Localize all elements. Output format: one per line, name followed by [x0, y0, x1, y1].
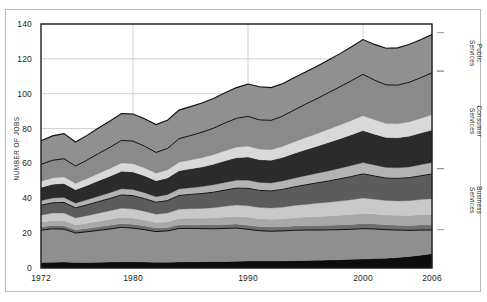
stacked-area-chart — [0, 0, 487, 302]
x-tick-label: 1980 — [113, 273, 153, 283]
bracket-label-line2: Services — [469, 91, 476, 151]
chart-screenshot: 020406080100120140 19721980199020002006 … — [0, 0, 487, 302]
x-tick-label: 2000 — [343, 273, 383, 283]
bracket-label-line1: Business — [476, 170, 483, 230]
y-axis-label: NUMBER OF JOBS — [13, 109, 20, 189]
area-band-2 — [41, 227, 432, 262]
x-tick-label: 1990 — [228, 273, 268, 283]
bracket-3 — [437, 0, 451, 302]
y-tick-label: 140 — [6, 19, 32, 29]
y-tick-label: 100 — [6, 89, 32, 99]
bracket-label-line2: Services — [469, 170, 476, 230]
y-tick-label: 0 — [6, 263, 32, 273]
x-tick-label: 1972 — [21, 273, 61, 283]
bracket-label-1: PublicServices — [469, 23, 483, 83]
plot-canvas — [0, 0, 487, 302]
bracket-label-line1: Public — [476, 23, 483, 83]
bracket-label-line2: Services — [469, 23, 476, 83]
bracket-ticks — [437, 169, 444, 230]
bracket-label-2: ConsumerServices — [469, 91, 483, 151]
bracket-label-line1: Consumer — [476, 91, 483, 151]
y-tick-label: 20 — [6, 228, 32, 238]
y-tick-label: 120 — [6, 54, 32, 64]
bracket-label-3: BusinessServices — [469, 170, 483, 230]
y-tick-label: 40 — [6, 193, 32, 203]
